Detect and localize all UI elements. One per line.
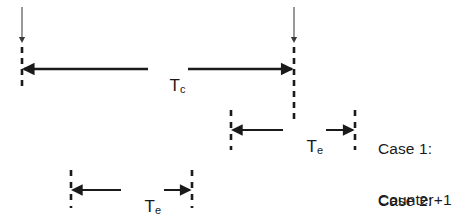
timing-diagram: Tc Te Te Case 1: Counter+1 Case 2: Count… (0, 0, 465, 217)
te-case1-label: Te (285, 121, 326, 173)
tc-symbol: T (170, 76, 180, 95)
case-2-title: Case 2: (378, 193, 452, 209)
te-case1-symbol: T (307, 137, 317, 156)
te-case2-label: Te (123, 181, 164, 217)
te-case1-subscript: e (317, 144, 323, 156)
tc-label: Tc (148, 60, 188, 112)
te-case2-subscript: e (155, 204, 161, 216)
case-1-title: Case 1: (378, 141, 452, 157)
te-case2-symbol: T (145, 197, 155, 216)
tc-subscript: c (180, 83, 186, 95)
case-2-annotation: Case 2: Counter+0 (378, 162, 452, 217)
